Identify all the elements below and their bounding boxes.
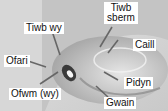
label-ofwm-wy: Ofwm (wy)	[9, 88, 61, 100]
label-gwain: Gwain	[104, 97, 136, 109]
label-ofari: Ofari	[4, 55, 30, 67]
label-tiwb-sberm: Tiwb sberm	[104, 2, 138, 24]
label-caill: Caill	[133, 39, 156, 51]
label-tiwb-wy: Tiwb wy	[24, 22, 64, 34]
annotated-specimen-photo: Tiwb wy Tiwb sberm Caill Ofari Pidyn Ofw…	[0, 0, 168, 111]
label-pidyn: Pidyn	[124, 77, 153, 89]
